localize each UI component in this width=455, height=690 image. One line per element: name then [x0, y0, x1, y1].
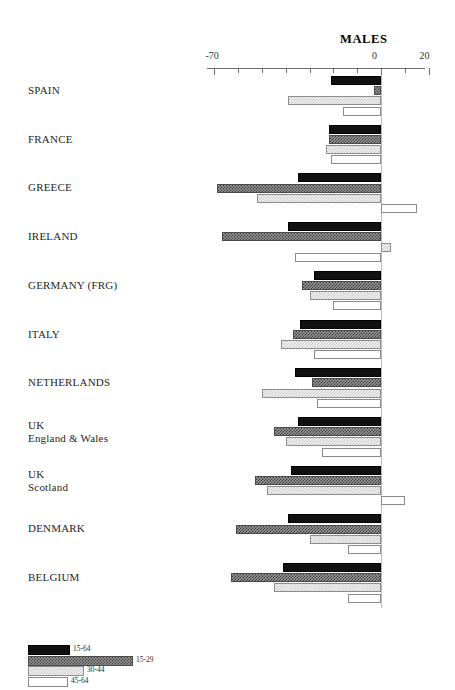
legend-item-15-64: 15-64 — [28, 645, 248, 655]
bar-45-64-BELGIUM — [348, 594, 381, 603]
bar-30-44-FRANCE — [326, 145, 381, 154]
chart-container: MALES -70020 SPAINFRANCEGREECEIRELANDGER… — [0, 0, 455, 690]
bar-15-64-BELGIUM — [283, 563, 381, 572]
legend-item-30-44: 30-44 — [28, 666, 248, 676]
bar-30-44-NETHERLANDS — [262, 389, 381, 398]
bar-30-44-UK-Scotland — [267, 486, 381, 495]
bar-45-64-UK-England---Wales — [322, 448, 382, 457]
bar-30-44-UK-England---Wales — [286, 437, 381, 446]
bar-15-29-IRELAND — [222, 232, 381, 241]
bar-15-29-GERMANY--FRG- — [302, 281, 381, 290]
bar-15-64-GERMANY--FRG- — [314, 271, 381, 280]
bar-45-64-FRANCE — [331, 155, 381, 164]
bar-15-29-NETHERLANDS — [312, 378, 381, 387]
bar-15-29-SPAIN — [374, 86, 381, 95]
bar-30-44-DENMARK — [310, 535, 381, 544]
bar-45-64-SPAIN — [343, 107, 381, 116]
bar-30-44-SPAIN — [288, 96, 381, 105]
bar-15-64-GREECE — [298, 173, 381, 182]
legend-swatch-dark-checker — [28, 656, 133, 666]
bar-45-64-GREECE — [381, 204, 417, 213]
legend-label: 15-64 — [73, 644, 91, 653]
bar-30-44-ITALY — [281, 340, 381, 349]
bar-45-64-UK-Scotland — [381, 496, 405, 505]
legend-label: 15-29 — [136, 655, 154, 664]
bar-15-29-GREECE — [217, 184, 381, 193]
bar-15-29-UK-England---Wales — [274, 427, 381, 436]
bar-45-64-IRELAND — [295, 253, 381, 262]
legend-item-45-64: 45-64 — [28, 677, 248, 687]
bar-15-64-IRELAND — [288, 222, 381, 231]
bar-15-29-ITALY — [293, 330, 381, 339]
bar-30-44-BELGIUM — [274, 583, 381, 592]
bar-15-64-UK-Scotland — [291, 466, 381, 475]
bar-45-64-DENMARK — [348, 545, 381, 554]
chart-legend: 15-6415-2930-4445-64 — [28, 645, 248, 690]
bar-30-44-GERMANY--FRG- — [310, 291, 381, 300]
bar-15-64-NETHERLANDS — [295, 368, 381, 377]
legend-item-15-29: 15-29 — [28, 656, 248, 666]
bar-30-44-IRELAND — [381, 243, 391, 252]
bar-15-29-UK-Scotland — [255, 476, 381, 485]
bar-45-64-GERMANY--FRG- — [333, 301, 381, 310]
legend-swatch-solid-black — [28, 645, 70, 655]
bar-30-44-GREECE — [257, 194, 381, 203]
bar-15-64-UK-England---Wales — [298, 417, 381, 426]
legend-label: 30-44 — [87, 665, 105, 674]
legend-swatch-light-checker — [28, 666, 84, 676]
bar-15-64-DENMARK — [288, 514, 381, 523]
bar-45-64-NETHERLANDS — [317, 399, 381, 408]
bar-15-29-DENMARK — [236, 525, 381, 534]
bar-45-64-ITALY — [314, 350, 381, 359]
legend-swatch-white-outline — [28, 677, 68, 687]
bar-15-64-SPAIN — [331, 76, 381, 85]
legend-label: 45-64 — [71, 676, 89, 685]
bar-15-64-FRANCE — [329, 125, 381, 134]
bar-15-29-BELGIUM — [231, 573, 381, 582]
bar-15-29-FRANCE — [329, 135, 381, 144]
bar-series-area — [0, 0, 455, 690]
bar-15-64-ITALY — [300, 320, 381, 329]
